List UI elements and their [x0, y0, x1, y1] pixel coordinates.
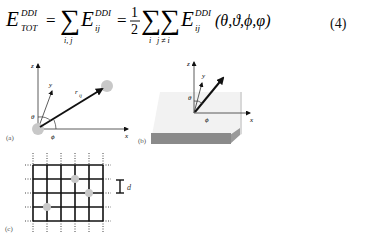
a-target-dot	[101, 80, 113, 92]
a-phi-label: ϕ	[51, 133, 55, 141]
b-slab-top	[152, 92, 240, 135]
a-phi-arc	[54, 120, 56, 129]
c-particle-1	[71, 175, 79, 183]
b-panel-label: (b)	[138, 137, 147, 145]
c-spacing-bracket	[116, 180, 124, 193]
panel-b: z x y θ ϕ (b)	[138, 60, 254, 145]
a-y-label: y	[48, 81, 53, 89]
c-particle-2	[85, 189, 93, 197]
b-z-label: z	[186, 60, 190, 68]
b-x-label: x	[249, 116, 254, 124]
b-phi-label: ϕ	[205, 116, 209, 124]
b-slab-front	[151, 133, 231, 144]
a-r-sub: ij	[79, 93, 82, 98]
c-panel-label: (c)	[5, 225, 13, 233]
c-particle-3	[43, 203, 51, 211]
a-theta-label: θ	[31, 113, 35, 121]
a-r-vector	[40, 89, 102, 127]
c-spacing-label: d	[127, 183, 132, 192]
a-r-label: r	[75, 88, 78, 96]
panel-c: d (c)	[5, 153, 132, 233]
panel-a: z x y r ij θ ϕ (a)	[6, 62, 129, 142]
a-panel-label: (a)	[6, 134, 14, 142]
a-x-label: x	[124, 132, 129, 140]
b-y-label: y	[201, 72, 206, 80]
b-slab-edge	[240, 92, 242, 135]
b-theta-label: θ	[188, 94, 192, 102]
a-z-label: z	[30, 62, 34, 70]
figure-panels: z x y r ij θ ϕ (a) z x y θ ϕ (b)	[0, 0, 365, 247]
